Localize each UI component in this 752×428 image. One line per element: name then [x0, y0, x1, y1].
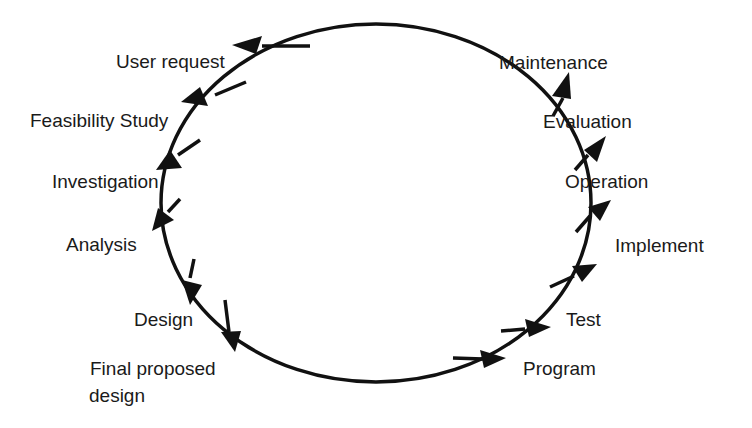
stage-label-design: Design: [134, 309, 193, 331]
stage-label-investigation: Investigation: [52, 171, 159, 193]
stage-label-feasibility-study: Feasibility Study: [30, 110, 168, 132]
stage-label-final-proposed-design-line1: Final proposed: [90, 358, 216, 380]
stage-label-evaluation: Evaluation: [543, 111, 632, 133]
arrow-user-request: [232, 36, 310, 54]
arrow-program: [453, 350, 506, 368]
stage-label-final-proposed-design-line2: design: [89, 385, 145, 407]
stage-label-test: Test: [566, 309, 601, 331]
arrow-test: [501, 319, 551, 337]
arrow-investigation: [156, 140, 200, 170]
stage-label-program: Program: [523, 358, 596, 380]
arrow-maintenance: [552, 72, 571, 116]
arrow-implement: [550, 264, 597, 287]
cycle-ellipse: [161, 24, 591, 382]
arrow-design: [182, 259, 202, 305]
stage-label-user-request: User request: [116, 51, 225, 73]
stage-label-operation: Operation: [565, 171, 648, 193]
arrow-final-proposed-design: [221, 300, 241, 352]
stage-label-implement: Implement: [615, 235, 704, 257]
arrow-operation: [576, 200, 611, 232]
stage-label-analysis: Analysis: [66, 234, 137, 256]
arrow-analysis: [152, 199, 180, 231]
stage-label-maintenance: Maintenance: [499, 52, 608, 74]
